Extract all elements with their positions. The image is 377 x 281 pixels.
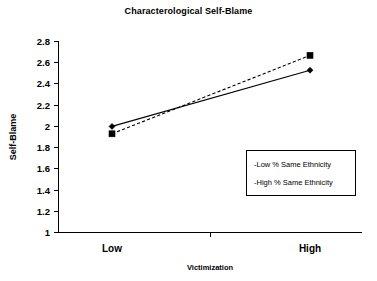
y-tick-label: 1 [45, 227, 51, 238]
series-line-low-same-ethnicity [112, 70, 310, 126]
y-tick-label: 1.4 [37, 185, 51, 196]
y-tick-label: 1.2 [37, 206, 50, 217]
y-tick-label: 2.6 [37, 57, 50, 68]
series-line-high-same-ethnicity [112, 55, 310, 133]
y-tick-label: 2.4 [37, 78, 51, 89]
y-tick-label: 2.8 [37, 36, 50, 47]
legend-box [247, 151, 356, 196]
data-point-marker-diamond [109, 123, 115, 129]
data-point-marker-square [109, 131, 115, 137]
data-point-marker-diamond [307, 67, 313, 73]
legend-entry-low: -Low % Same Ethnicity [254, 160, 331, 169]
y-axis-title: Self-Blame [8, 114, 18, 161]
y-axis-ticks [54, 42, 58, 233]
x-tick-label-low: Low [102, 243, 122, 254]
legend-entry-high: -High % Same Ethnicity [254, 178, 333, 187]
x-tick-label-high: High [299, 243, 321, 254]
y-tick-label: 2.2 [37, 100, 50, 111]
data-point-marker-square [307, 52, 313, 58]
chart-figure: Characterological Self-Blame 2.8 2.6 2.4… [0, 0, 377, 281]
y-tick-label: 1.8 [37, 142, 50, 153]
y-tick-label: 1.6 [37, 163, 50, 174]
x-axis-title: Victimization [187, 263, 234, 272]
y-tick-label: 2 [45, 121, 50, 132]
chart-plot-area: 2.8 2.6 2.4 2.2 2 1.8 1.6 1.4 1.2 1 Low … [0, 0, 377, 281]
